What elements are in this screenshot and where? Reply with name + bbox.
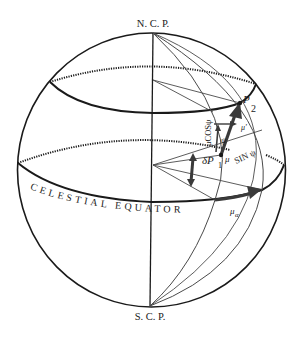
label-mu-alpha-sub: α	[235, 211, 239, 219]
label-south-pole: S. C. P.	[135, 311, 166, 322]
label-mu-cos-psi: μCOSψ	[203, 119, 213, 146]
label-p1: δP	[202, 154, 214, 166]
label-north-pole: N. C. P.	[137, 18, 169, 29]
mu-alpha-arrow-shaft	[215, 193, 252, 200]
equator-back-right	[266, 155, 284, 165]
polar-axis	[150, 33, 153, 306]
label-sin-psi: SIN ψ	[233, 147, 258, 166]
delta-dec-arrowhead-up	[189, 153, 197, 161]
celestial-sphere-diagram: N. C. P. S. C. P. P 2 δP 1 μ μ' ψ μCOSψ …	[0, 0, 302, 342]
label-p2-sub: 2	[251, 103, 256, 114]
label-p1-sub: 1	[218, 161, 222, 170]
delta-dec-arrow-shaft	[191, 158, 193, 182]
equator-back	[18, 140, 230, 163]
mu-arrow-shaft	[221, 112, 236, 155]
label-mu: μ	[224, 154, 230, 164]
delta-dec-arrowhead-down	[187, 179, 195, 187]
great-circle-motion	[150, 33, 256, 306]
point-p1	[219, 153, 223, 157]
point-p2	[238, 101, 242, 105]
mu-cos-arrow-shaft	[216, 128, 218, 152]
label-p2: P	[242, 93, 250, 105]
mu-cos-arrowhead	[215, 124, 221, 131]
radial-line-6	[153, 165, 215, 200]
label-mu-prime: μ'	[240, 123, 247, 132]
radial-line-5	[153, 165, 262, 190]
mu-alpha-arrowhead	[247, 186, 262, 199]
